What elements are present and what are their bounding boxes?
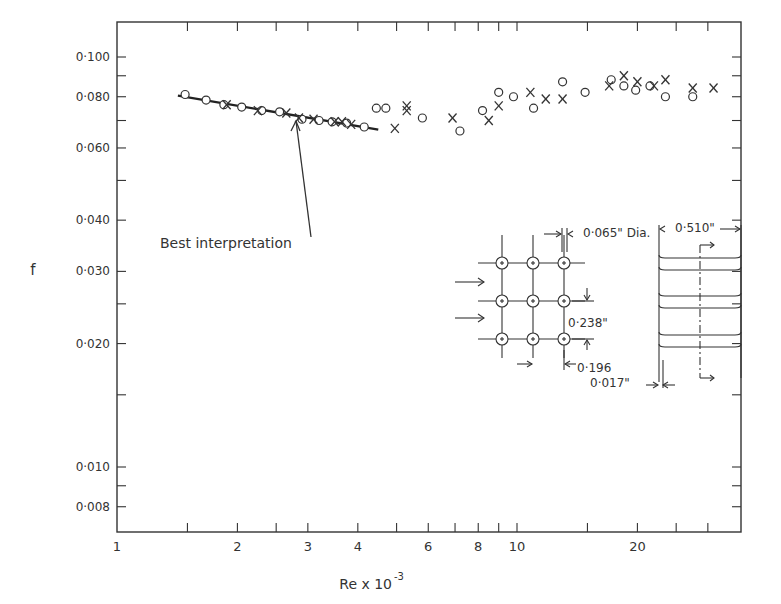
y-tick-label: 0·030	[76, 264, 110, 278]
cross-marker	[689, 84, 697, 93]
cross-marker	[485, 116, 493, 125]
circle-marker	[238, 103, 246, 111]
y-tick-label: 0·020	[76, 337, 110, 351]
y-tick-label: 0·100	[76, 50, 110, 64]
x-tick-labels: 1234681020	[113, 539, 646, 554]
y-tick-label: 0·040	[76, 213, 110, 227]
y-tick-label: 0·010	[76, 460, 110, 474]
x-tick-label: 10	[509, 539, 526, 554]
x-axis-label: Re x 10	[339, 576, 392, 592]
circle-marker	[530, 104, 538, 112]
circle-marker	[456, 127, 464, 135]
x-tick-label: 6	[424, 539, 432, 554]
circle-marker	[495, 88, 503, 96]
circle-marker	[646, 82, 654, 90]
y-axis-label: f	[30, 261, 36, 279]
x-tick-label: 20	[629, 539, 646, 554]
circle-marker	[620, 82, 628, 90]
axes-box	[117, 22, 741, 532]
x-axis-label-exponent: -3	[394, 571, 404, 582]
data-points	[181, 71, 717, 135]
cross-marker	[559, 94, 567, 103]
x-axis-ticks	[187, 22, 707, 532]
x-tick-label: 4	[354, 539, 362, 554]
circle-marker	[315, 117, 323, 125]
y-tick-label: 0·080	[76, 90, 110, 104]
cross-marker	[710, 84, 718, 93]
circle-marker	[689, 93, 697, 101]
cross-marker	[391, 124, 399, 133]
best-interpretation-annotation: Best interpretation	[160, 235, 292, 251]
circle-marker	[632, 86, 640, 94]
cross-marker	[495, 101, 503, 110]
cross-marker	[403, 106, 411, 115]
circle-marker	[479, 107, 487, 115]
inset-labels: 0·065" Dia. 0·238" 0·196 0·017" 0·510"	[568, 221, 715, 390]
x-tick-label: 8	[474, 539, 482, 554]
longitudinal-pitch-label: 0·196	[577, 361, 611, 375]
cross-marker	[526, 88, 534, 97]
cross-marker	[633, 77, 641, 86]
circle-marker	[661, 93, 669, 101]
x-tick-label: 2	[233, 539, 241, 554]
cross-marker	[449, 113, 457, 122]
circle-marker	[418, 114, 426, 122]
y-tick-labels: 0·1000·0800·0600·0400·0300·0200·0100·008	[76, 50, 110, 514]
circle-marker	[382, 104, 390, 112]
y-axis-ticks	[117, 57, 741, 507]
circle-marker	[581, 88, 589, 96]
circle-marker	[607, 76, 615, 84]
y-tick-label: 0·008	[76, 500, 110, 514]
cross-marker	[403, 101, 411, 110]
circle-marker	[360, 123, 368, 131]
fin-thickness-label: 0·017"	[590, 376, 630, 390]
cross-marker	[661, 75, 669, 84]
friction-factor-chart: f Re x 10 -3 Best interpretation 0·065" …	[0, 0, 781, 604]
transverse-pitch-label: 0·238"	[568, 316, 608, 330]
cross-marker	[542, 94, 550, 103]
circle-marker	[202, 96, 210, 104]
x-tick-label: 1	[113, 539, 121, 554]
dimension-arrow-icon	[660, 226, 665, 232]
cross-marker	[620, 71, 628, 80]
circle-marker	[509, 93, 517, 101]
y-tick-label: 0·060	[76, 141, 110, 155]
annotation-arrow-icon	[291, 121, 311, 237]
circle-marker	[372, 104, 380, 112]
tube-diameter-label: 0·065" Dia.	[583, 226, 650, 240]
plot-frame	[117, 22, 741, 532]
circle-marker	[258, 107, 266, 115]
fin-spacing-label: 0·510"	[675, 221, 715, 235]
x-tick-label: 3	[304, 539, 312, 554]
circle-marker	[181, 91, 189, 99]
circle-marker	[559, 78, 567, 86]
